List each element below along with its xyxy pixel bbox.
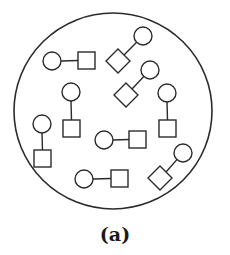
pair-5 bbox=[158, 84, 176, 137]
circle-node bbox=[95, 131, 113, 149]
circle-node bbox=[174, 144, 192, 162]
pairs-group bbox=[33, 27, 192, 190]
connector-line bbox=[132, 76, 144, 89]
figure-caption: (a) bbox=[0, 223, 230, 245]
circle-node bbox=[134, 27, 152, 45]
connector-line bbox=[166, 160, 177, 172]
square-node bbox=[111, 170, 128, 187]
square-node bbox=[34, 150, 51, 167]
connector-line bbox=[71, 101, 72, 120]
pair-7 bbox=[95, 131, 146, 149]
square-node bbox=[63, 120, 80, 137]
pair-6 bbox=[33, 115, 51, 167]
circle-node bbox=[75, 170, 93, 188]
square-node bbox=[159, 120, 176, 137]
pair-3 bbox=[114, 61, 159, 107]
pair-4 bbox=[62, 83, 80, 137]
pair-1 bbox=[43, 52, 95, 70]
connector-line bbox=[113, 140, 129, 141]
connector-line bbox=[42, 133, 43, 150]
circle-node bbox=[141, 61, 159, 79]
pair-8 bbox=[75, 170, 128, 188]
connector-line bbox=[61, 61, 78, 62]
circle-node bbox=[62, 83, 80, 101]
diagram-canvas bbox=[0, 0, 230, 220]
circle-node bbox=[158, 84, 176, 102]
square-node bbox=[129, 131, 146, 148]
pair-2 bbox=[106, 27, 152, 73]
connector-line bbox=[93, 179, 111, 180]
circle-node bbox=[33, 115, 51, 133]
square-node bbox=[78, 52, 95, 69]
pair-9 bbox=[148, 144, 192, 190]
connector-line bbox=[167, 102, 168, 120]
container-circle bbox=[14, 13, 212, 209]
circle-node bbox=[43, 52, 61, 70]
connector-line bbox=[124, 42, 137, 55]
